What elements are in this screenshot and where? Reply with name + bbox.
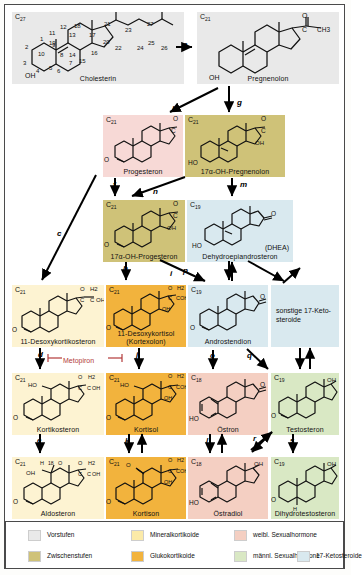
atom-number-18: 18 [74, 22, 81, 31]
svg-text:C: C [87, 385, 91, 391]
svg-text:C: C [90, 297, 95, 303]
svg-text:C: C [168, 384, 172, 390]
compound-box-kortisol: C21 O HO O H2 C C OH [106, 373, 186, 435]
atom-number-11: 11 [49, 29, 55, 38]
svg-text:O: O [13, 414, 18, 421]
atom-number-3: 3 [23, 59, 26, 68]
enzyme-label-n: n [153, 188, 158, 196]
svg-text:O: O [78, 460, 83, 466]
legend-swatch-ketosteroide [297, 551, 310, 562]
atom-number-19: 19 [49, 39, 56, 48]
compound-box-progesteron: C21 O O C Progesteron [103, 115, 183, 177]
enzyme-label-a: a [183, 41, 187, 49]
compound-name-testosteron: Testosteron [271, 426, 339, 434]
legend-row-2: Zwischenstufen Glukokortikoide männl. Se… [6, 546, 343, 566]
svg-text:OH: OH [92, 385, 100, 391]
svg-text:HO: HO [189, 499, 199, 506]
svg-text:O: O [260, 381, 265, 388]
svg-text:OH: OH [180, 295, 186, 301]
atom-number-7: 7 [69, 59, 72, 68]
legend-swatch-mineralkortikoide [131, 530, 144, 541]
legend-row-1: Vorstufen Mineralkortikoide weibl. Sexua… [6, 525, 343, 545]
compound-box-kortison: C21 O O O H2 C C OH [106, 457, 186, 519]
enzyme-label-m: m [240, 181, 247, 189]
legend-label-mineralkortikoide: Mineralkortikoide [150, 531, 199, 539]
legend-item-mineralkortikoide: Mineralkortikoide [131, 525, 199, 545]
legend-item-glukokortikoide: Glukokortikoide [131, 546, 195, 566]
svg-text:O: O [106, 498, 111, 505]
svg-text:HO: HO [188, 159, 198, 166]
svg-text:O: O [126, 462, 131, 468]
legend-swatch-zwischenstufen [28, 551, 41, 562]
atom-number-20: 20 [103, 38, 110, 47]
legend-swatch-weibl-sexualhormone [234, 530, 247, 541]
svg-text:H2: H2 [177, 285, 184, 291]
svg-text:OH: OH [96, 297, 104, 303]
compound-name-androstendion: Androstendion [188, 338, 268, 346]
svg-text:C: C [78, 471, 82, 477]
svg-text:O: O [106, 414, 111, 421]
svg-text:OH: OH [26, 470, 35, 476]
compound-box-oh-progesteron: C21 O O C OH 17α-OH-Progesteron [103, 200, 185, 262]
compound-name-desoxykortikosteron: 11-Desoxykortikosteron [12, 338, 104, 346]
svg-text:C: C [80, 297, 85, 303]
svg-text:C: C [168, 468, 172, 474]
legend-label-weibl-sexualhormone: weibl. Sexualhormone [253, 531, 317, 539]
compound-box-dhea: C19 HO O (DHEA) Dehydroepiandrosteron [187, 200, 293, 262]
compound-name-pregnenolon: Pregnenolon [197, 75, 339, 83]
enzyme-label-p: l [206, 437, 208, 445]
svg-text:OH: OH [180, 468, 186, 474]
atom-number-24: 24 [137, 44, 144, 53]
svg-text:OH: OH [164, 395, 172, 401]
legend-item-vorstufen: Vorstufen [28, 525, 74, 545]
legend: Vorstufen Mineralkortikoide weibl. Sexua… [5, 521, 344, 569]
legend-label-zwischenstufen: Zwischenstufen [47, 552, 92, 560]
svg-text:O: O [12, 326, 17, 333]
svg-text:O: O [104, 241, 109, 248]
svg-text:O: O [190, 324, 195, 331]
svg-text:OH: OH [162, 306, 170, 312]
enzyme-label-j: j [136, 351, 138, 359]
svg-text:H2: H2 [90, 286, 98, 292]
compound-name-cholesterin: Cholesterin [12, 75, 184, 83]
compound-alias-desoxykortisol: (Kortexolon) [106, 338, 186, 346]
svg-text:C: C [302, 26, 307, 33]
atom-number-17: 17 [89, 31, 96, 40]
atom-number-16: 16 [91, 49, 98, 58]
svg-text:H2: H2 [88, 374, 95, 380]
diagram-frame: C27 [4, 4, 345, 569]
svg-text:O: O [271, 210, 276, 217]
svg-text:O: O [58, 460, 63, 466]
legend-item-ketosteroide: 17-Ketosteroide [297, 546, 362, 566]
svg-text:CH3: CH3 [317, 26, 330, 33]
legend-item-zwischenstufen: Zwischenstufen [28, 546, 92, 566]
compound-box-sonstige-ketosteroide: sonstige 17-Keto-steroide [271, 285, 339, 347]
inhibitor-label-metopiron: Metopiron [63, 357, 94, 365]
svg-text:O: O [271, 496, 276, 503]
atom-number-4: 4 [36, 67, 39, 76]
structure-pregnenolon: OH O C CH3 [197, 12, 339, 84]
enzyme-label-e: e [37, 437, 41, 445]
svg-text:OH: OH [327, 461, 336, 467]
enzyme-label-o: o [210, 352, 215, 360]
svg-text:C: C [171, 127, 176, 134]
legend-label-vorstufen: Vorstufen [47, 531, 74, 539]
compound-box-desoxykortikosteron: C21 O O H2 C C OH 11-Desoxyko [12, 285, 104, 347]
svg-text:O: O [261, 115, 266, 122]
enzyme-label-c: c [57, 230, 61, 238]
compound-box-dihydrotestosteron: C19 O H OH Dihydrotestosteron [271, 457, 339, 519]
compound-name-kortison: Kortison [106, 510, 186, 518]
enzyme-label-h: h [123, 265, 128, 273]
atom-number-21: 21 [104, 20, 111, 29]
atom-number-8: 8 [60, 51, 63, 60]
atom-number-26: 26 [161, 44, 168, 53]
atom-number-15: 15 [79, 57, 86, 66]
compound-name-dihydrotestosteron: Dihydrotestosteron [271, 510, 339, 518]
svg-text:C: C [261, 127, 266, 134]
svg-text:C: C [173, 212, 178, 219]
compound-name-oestradiol: Östradiol [188, 510, 268, 518]
legend-label-ketosteroide: 17-Ketosteroide [316, 552, 362, 560]
legend-item-weibl-sexualhormone: weibl. Sexualhormone [234, 525, 317, 545]
svg-text:H2: H2 [88, 460, 95, 466]
svg-text:O: O [168, 373, 173, 379]
